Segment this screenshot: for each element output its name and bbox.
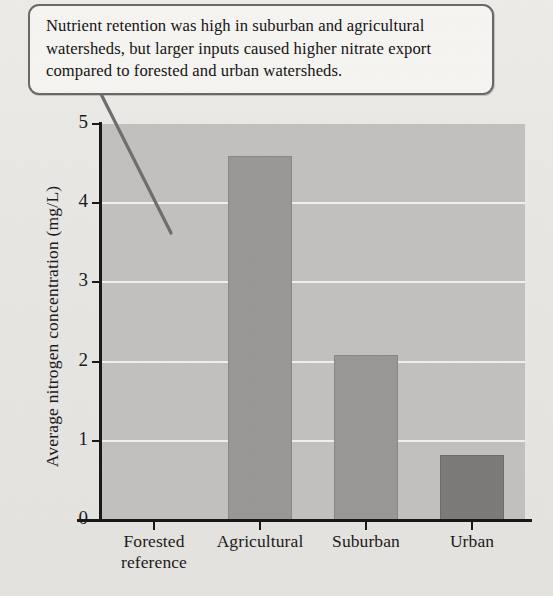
y-tick-mark bbox=[92, 519, 101, 521]
bar bbox=[440, 455, 504, 520]
callout-box: Nutrient retention was high in suburban … bbox=[28, 4, 494, 95]
y-tick-label: 2 bbox=[48, 349, 88, 371]
y-axis-line bbox=[99, 122, 102, 522]
x-axis-line bbox=[77, 519, 532, 522]
x-tick-mark bbox=[259, 522, 261, 530]
x-tick-mark bbox=[471, 522, 473, 530]
y-tick-label: 3 bbox=[48, 269, 88, 291]
x-tick-mark bbox=[365, 522, 367, 530]
y-tick-mark bbox=[92, 281, 101, 283]
gridline bbox=[101, 202, 525, 204]
bar bbox=[334, 355, 398, 520]
callout-text: Nutrient retention was high in suburban … bbox=[46, 15, 478, 83]
x-tick-label: Urban bbox=[402, 531, 542, 552]
y-tick-label: 1 bbox=[48, 428, 88, 450]
y-tick-mark bbox=[92, 361, 101, 363]
gridline bbox=[101, 281, 525, 283]
y-tick-mark bbox=[92, 123, 101, 125]
y-tick-mark bbox=[92, 440, 101, 442]
gridline bbox=[101, 361, 525, 363]
y-axis-title: Average nitrogen concentration (mg/L) bbox=[42, 127, 63, 527]
bar bbox=[228, 156, 292, 520]
plot-area bbox=[101, 124, 525, 520]
x-tick-mark bbox=[153, 522, 155, 530]
y-tick-mark bbox=[92, 202, 101, 204]
y-tick-label: 5 bbox=[48, 111, 88, 133]
y-tick-label: 0 bbox=[48, 507, 88, 529]
y-tick-label: 4 bbox=[48, 190, 88, 212]
gridline bbox=[101, 440, 525, 442]
